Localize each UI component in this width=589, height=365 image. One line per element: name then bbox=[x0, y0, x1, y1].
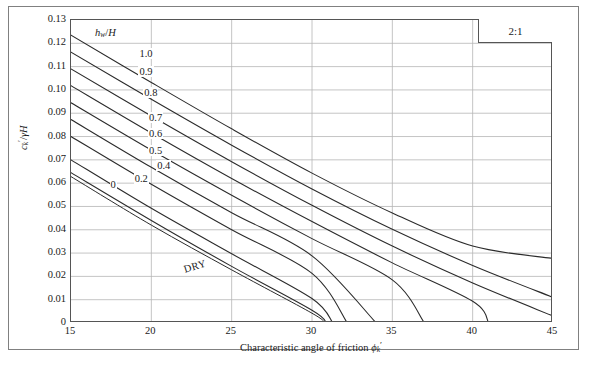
y-tick-label: 0.05 bbox=[48, 200, 66, 211]
slope-ratio-badge: 2:1 bbox=[478, 19, 552, 43]
curve-0-7 bbox=[71, 86, 489, 322]
x-axis-tick-labels: 15202530354045 bbox=[70, 325, 552, 341]
y-tick-label: 0.06 bbox=[48, 177, 66, 188]
y-tick-label: 0.04 bbox=[48, 224, 66, 235]
x-tick-label: 35 bbox=[386, 325, 397, 336]
y-tick-label: 0.11 bbox=[48, 61, 66, 72]
curve-label-0-4: 0.4 bbox=[156, 160, 171, 171]
grid-lines bbox=[71, 20, 552, 322]
y-axis-title: ck′/γH bbox=[16, 125, 30, 150]
x-tick-label: 20 bbox=[145, 325, 156, 336]
curve-dry bbox=[71, 177, 325, 322]
curve-label-0-8: 0.8 bbox=[143, 87, 158, 98]
y-tick-label: 0.12 bbox=[48, 37, 66, 48]
curve-label-0-5: 0.5 bbox=[148, 145, 163, 156]
curve-label-0-9: 0.9 bbox=[138, 66, 153, 77]
x-tick-label: 45 bbox=[547, 325, 558, 336]
plot-canvas bbox=[71, 20, 552, 322]
curve-label-0: 0 bbox=[110, 179, 117, 190]
x-tick-label: 30 bbox=[306, 325, 317, 336]
y-tick-label: 0.13 bbox=[48, 14, 66, 25]
y-tick-label: 0.10 bbox=[48, 84, 66, 95]
x-tick-label: 15 bbox=[65, 325, 76, 336]
y-tick-label: 0.08 bbox=[48, 131, 66, 142]
curve-label-0-7: 0.7 bbox=[148, 112, 163, 123]
x-axis-title: Characteristic angle of friction ϕk′ bbox=[70, 340, 552, 354]
y-axis-tick-labels: 00.010.020.030.040.050.060.070.080.090.1… bbox=[24, 0, 66, 330]
curve-0-5 bbox=[71, 120, 376, 322]
curve-label-0-6: 0.6 bbox=[148, 128, 163, 139]
curve-label-1-0: 1.0 bbox=[138, 48, 153, 59]
y-tick-label: 0.02 bbox=[48, 270, 66, 281]
x-tick-label: 25 bbox=[225, 325, 236, 336]
curve-label-0-2: 0.2 bbox=[134, 173, 149, 184]
y-tick-label: 0.03 bbox=[48, 247, 66, 258]
curve-0-6 bbox=[71, 103, 424, 322]
y-tick-label: 0.01 bbox=[48, 294, 66, 305]
curve-0-8 bbox=[71, 69, 552, 316]
plot-area: hw/H 1.00.90.80.70.60.50.40.20 DRY bbox=[70, 19, 552, 322]
y-tick-label: 0.09 bbox=[48, 107, 66, 118]
figure-page: 00.010.020.030.040.050.060.070.080.090.1… bbox=[0, 0, 589, 365]
x-tick-label: 40 bbox=[466, 325, 477, 336]
y-tick-label: 0.07 bbox=[48, 154, 66, 165]
